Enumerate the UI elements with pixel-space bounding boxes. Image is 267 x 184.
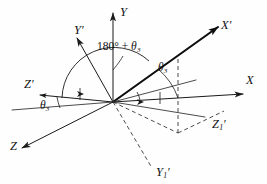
label-theta-right: θ3 (158, 62, 167, 75)
inner-arrowhead-z (77, 91, 84, 97)
label-axis-x-prime: X' (221, 19, 231, 32)
axis-z1-prime (113, 102, 205, 117)
label-major-angle: 180° + θ3 (97, 41, 141, 54)
axis-z1-prime-opposite (113, 80, 196, 102)
projection-base-left-dashed (113, 102, 178, 133)
label-axis-z: Z (10, 140, 17, 153)
axis-z (22, 102, 113, 148)
arc-major-angle (62, 47, 149, 98)
axis-z-prime (40, 95, 113, 102)
axis-y1-prime (113, 102, 152, 168)
label-axis-y-prime: Y' (74, 24, 84, 37)
axis-z-prime-extension (12, 102, 113, 110)
label-axis-y1-prime: Y1' (156, 166, 170, 180)
coordinate-axes-diagram: Y X' Y' X Z' Z Z1' Y1' 180° + θ3 θ3 θ3 (0, 0, 267, 184)
arc-theta-right-inner (137, 92, 140, 100)
label-axis-z1-prime: Z1' (212, 118, 226, 132)
label-axis-y: Y (120, 6, 127, 19)
label-axis-z-prime: Z' (24, 78, 34, 91)
label-theta-left: θ3 (40, 100, 49, 113)
leader-major-angle (113, 56, 123, 70)
label-axis-x: X (246, 74, 254, 87)
